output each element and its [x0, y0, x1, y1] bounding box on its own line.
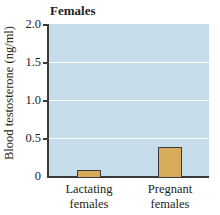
y-tick-label: 0.5: [25, 131, 41, 145]
y-tick-1-0: [43, 100, 48, 102]
category-label-line: Lactating: [54, 182, 124, 197]
category-label-line: females: [54, 197, 124, 212]
gridline-1-0: [48, 100, 209, 101]
bar-pregnant-females: [158, 147, 182, 178]
y-axis-label: Blood testosterone (ng/ml): [2, 26, 17, 160]
category-label-pregnant: Pregnant females: [135, 182, 205, 212]
y-tick-label: 1.5: [25, 55, 41, 69]
x-axis: [47, 176, 209, 178]
y-tick-2-0: [43, 24, 48, 26]
category-label-lactating: Lactating females: [54, 182, 124, 212]
y-tick-0-5: [43, 138, 48, 140]
gridline-1-5: [48, 62, 209, 63]
gridline-0-5: [48, 138, 209, 139]
y-tick-label: 1.0: [25, 93, 41, 107]
category-label-line: females: [135, 197, 205, 212]
y-tick-1-5: [43, 62, 48, 64]
bar-lactating-females: [77, 170, 101, 178]
y-tick-label: 2.0: [25, 17, 41, 31]
y-tick-label: 0: [35, 169, 41, 183]
chart-title: Females: [50, 3, 95, 19]
category-label-line: Pregnant: [135, 182, 205, 197]
